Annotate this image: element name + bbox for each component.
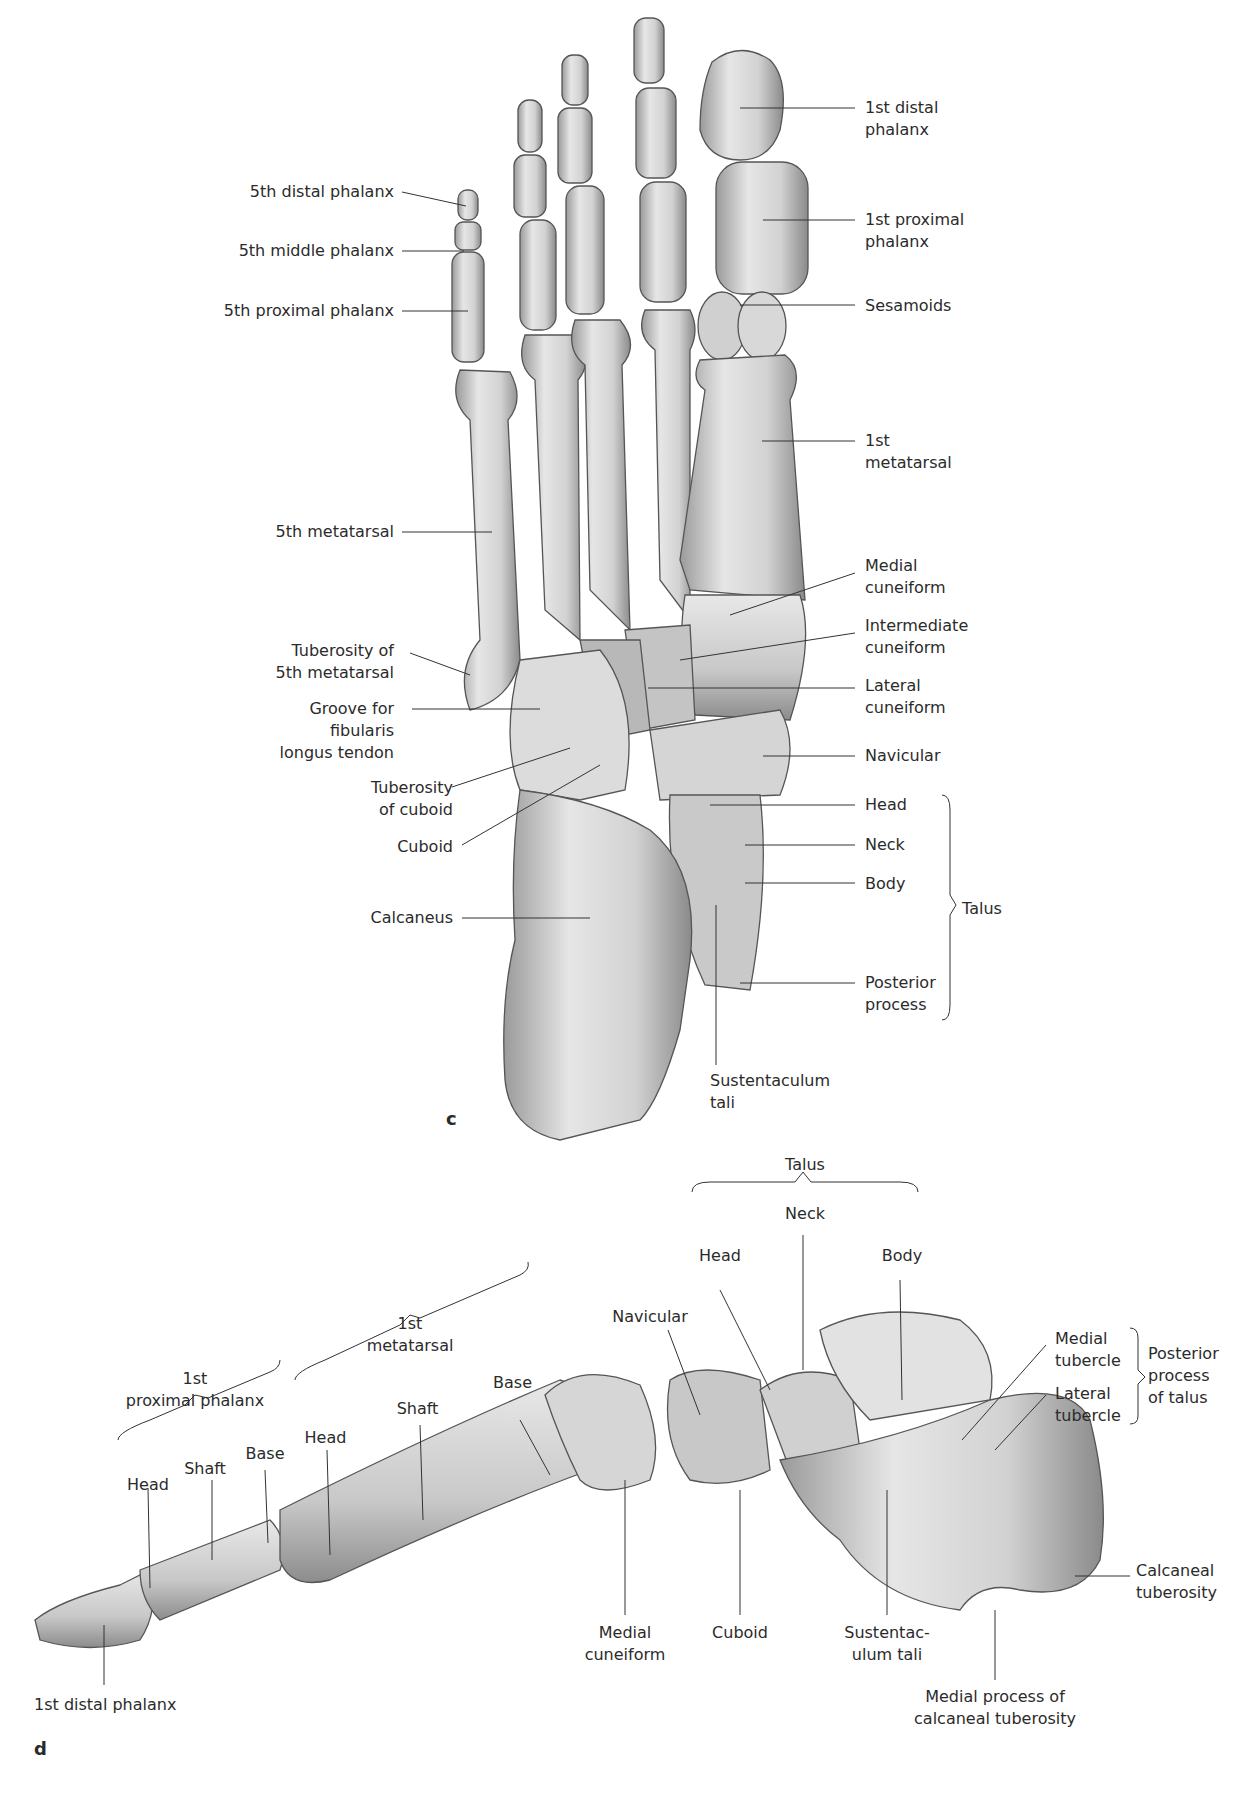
label-sesamoids: Sesamoids [865, 295, 951, 317]
label-d-meta-base: Base [480, 1372, 545, 1394]
label-d-sustentaculum-tali: Sustentac-ulum tali [835, 1622, 939, 1666]
label-5th-middle-phalanx: 5th middle phalanx [239, 240, 394, 262]
label-talus-neck: Neck [865, 834, 905, 856]
panel-letter-d: d [34, 1738, 47, 1759]
label-calcaneus: Calcaneus [371, 907, 453, 929]
label-intermediate-cuneiform: Intermediatecuneiform [865, 615, 968, 659]
label-tuberosity-5th-metatarsal: Tuberosity of5th metatarsal [276, 640, 394, 684]
label-5th-metatarsal: 5th metatarsal [276, 521, 394, 543]
label-d-meta-head: Head [293, 1427, 358, 1449]
label-5th-distal-phalanx: 5th distal phalanx [250, 181, 394, 203]
label-groove-fibularis: Groove forfibularislongus tendon [280, 698, 394, 764]
label-1st-distal-phalanx: 1st distalphalanx [865, 97, 938, 141]
label-tuberosity-of-cuboid: Tuberosityof cuboid [371, 777, 453, 821]
label-navicular: Navicular [865, 745, 940, 767]
label-d-cuboid: Cuboid [700, 1622, 780, 1644]
plantar-view-bones [452, 18, 808, 1140]
label-d-1st-distal-phalanx: 1st distal phalanx [34, 1694, 176, 1716]
label-d-prox-base: Base [235, 1443, 295, 1465]
label-sustentaculum-tali: Sustentaculumtali [710, 1070, 830, 1114]
label-d-head: Head [680, 1245, 760, 1267]
label-d-body: Body [862, 1245, 942, 1267]
label-d-meta-shaft: Shaft [385, 1398, 450, 1420]
label-d-1st-proximal-phalanx: 1stproximal phalanx [115, 1368, 275, 1412]
label-1st-metatarsal: 1stmetatarsal [865, 430, 952, 474]
label-d-prox-shaft: Shaft [175, 1458, 235, 1480]
label-d-navicular: Navicular [600, 1306, 700, 1328]
label-talus-head: Head [865, 794, 907, 816]
panel-letter-c: c [446, 1108, 457, 1129]
label-1st-proximal-phalanx: 1st proximalphalanx [865, 209, 964, 253]
foot-skeleton-illustration [0, 0, 1237, 1796]
label-posterior-process: Posteriorprocess [865, 972, 936, 1016]
label-d-medial-tubercle: Medialtubercle [1055, 1328, 1121, 1372]
label-d-calcaneal-tuberosity: Calcanealtuberosity [1136, 1560, 1217, 1604]
label-cuboid: Cuboid [397, 836, 453, 858]
label-d-prox-head: Head [118, 1474, 178, 1496]
label-talus-group: Talus [962, 898, 1002, 920]
label-d-posterior-process-of-talus: Posteriorprocessof talus [1148, 1343, 1219, 1409]
label-medial-cuneiform: Medialcuneiform [865, 555, 946, 599]
label-talus-body: Body [865, 873, 905, 895]
label-d-neck: Neck [765, 1203, 845, 1225]
label-d-talus: Talus [765, 1154, 845, 1176]
label-5th-proximal-phalanx: 5th proximal phalanx [224, 300, 394, 322]
label-lateral-cuneiform: Lateralcuneiform [865, 675, 946, 719]
label-d-lateral-tubercle: Lateraltubercle [1055, 1383, 1121, 1427]
label-d-medial-process-calcaneal-tuberosity: Medial process ofcalcaneal tuberosity [900, 1686, 1090, 1730]
label-d-1st-metatarsal: 1stmetatarsal [355, 1313, 465, 1357]
label-d-medial-cuneiform: Medialcuneiform [575, 1622, 675, 1666]
